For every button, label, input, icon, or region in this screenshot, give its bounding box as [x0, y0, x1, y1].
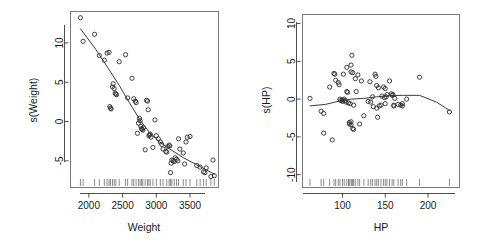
gam-partial-effect-figure: 1050-5 2000250030003500 Weight s(Weight)…	[0, 0, 479, 246]
svg-text:3500: 3500	[179, 200, 202, 211]
x-ticks-hp	[343, 194, 429, 198]
scatter-points-weight	[78, 16, 216, 179]
svg-text:0: 0	[286, 96, 297, 102]
svg-text:5: 5	[286, 58, 297, 64]
svg-text:2000: 2000	[78, 200, 101, 211]
svg-text:200: 200	[420, 200, 437, 211]
x-ticklabels-hp: 100150200	[334, 200, 437, 211]
rug-marks-hp	[310, 179, 449, 186]
y-ticklabels-weight: 1050-5	[54, 37, 65, 165]
svg-text:3000: 3000	[145, 200, 168, 211]
y-axis-label-hp: s(HP)	[260, 87, 272, 114]
weight-plot-svg: 1050-5 2000250030003500 Weight s(Weight)	[0, 0, 239, 246]
svg-text:10: 10	[286, 18, 297, 30]
x-axis-label-hp: HP	[374, 221, 389, 233]
svg-text:0: 0	[54, 118, 65, 124]
y-ticks-weight	[65, 43, 69, 161]
panel-hp: 1050-5-10 100150200 HP s(HP)	[240, 0, 479, 246]
y-ticklabels-hp: 1050-5-10	[286, 18, 297, 182]
svg-text:150: 150	[377, 200, 394, 211]
svg-text:10: 10	[54, 37, 65, 49]
x-ticks-weight	[89, 194, 190, 198]
rug-marks-weight	[80, 179, 214, 186]
svg-text:100: 100	[334, 200, 351, 211]
svg-text:-5: -5	[286, 132, 297, 141]
smooth-curve-weight	[80, 29, 214, 174]
svg-text:5: 5	[54, 79, 65, 85]
panel-weight: 1050-5 2000250030003500 Weight s(Weight)	[0, 0, 239, 246]
plot-border-hp	[303, 15, 460, 188]
x-ticklabels-weight: 2000250030003500	[78, 200, 202, 211]
svg-text:-5: -5	[54, 156, 65, 165]
x-axis-label-weight: Weight	[128, 221, 161, 233]
svg-text:-10: -10	[286, 167, 297, 182]
hp-plot-svg: 1050-5-10 100150200 HP s(HP)	[240, 0, 479, 246]
scatter-points-hp	[308, 53, 452, 142]
svg-text:2500: 2500	[111, 200, 134, 211]
y-axis-label-weight: s(Weight)	[27, 78, 39, 123]
